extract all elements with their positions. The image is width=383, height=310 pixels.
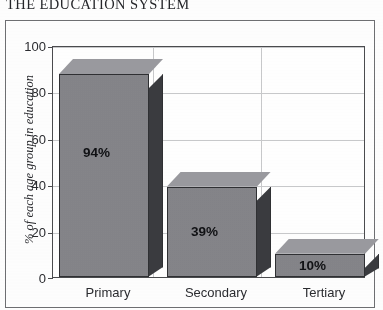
y-tick-label-60: 60 (16, 131, 46, 146)
bar-tertiary-top (275, 239, 379, 254)
x-label-tertiary: Tertiary (274, 285, 374, 300)
y-tick-mark-100 (48, 47, 53, 48)
y-tick-mark-20 (48, 233, 53, 234)
gridline-100 (53, 47, 364, 48)
y-tick-label-80: 80 (16, 85, 46, 100)
y-tick-mark-60 (48, 140, 53, 141)
plot-area: 94% 39% 10% (52, 46, 365, 278)
chart-title: THE EDUCATION SYSTEM (6, 0, 346, 14)
bar-secondary-side (256, 187, 271, 278)
bar-primary-value-label: 94% (83, 145, 110, 160)
y-tick-label-100: 100 (16, 39, 46, 54)
x-label-primary: Primary (58, 285, 158, 300)
bar-secondary-value-label: 39% (191, 224, 218, 239)
bar-primary-side (148, 74, 163, 277)
bar-primary[interactable]: 94% (59, 59, 149, 277)
chart-screenshot: THE EDUCATION SYSTEM % of each age group… (0, 0, 383, 310)
y-tick-label-20: 20 (16, 224, 46, 239)
y-tick-label-40: 40 (16, 178, 46, 193)
bar-secondary-top (167, 172, 271, 187)
bar-primary-top (59, 59, 163, 74)
bar-tertiary-value-label: 10% (299, 258, 326, 273)
y-tick-mark-40 (48, 186, 53, 187)
y-tick-mark-0 (48, 278, 53, 279)
bar-tertiary[interactable]: 10% (275, 239, 365, 277)
x-label-secondary: Secondary (166, 285, 266, 300)
y-tick-label-0: 0 (16, 271, 46, 286)
y-axis-tick-labels: 0 20 40 60 80 100 (16, 0, 46, 310)
bar-secondary[interactable]: 39% (167, 172, 257, 278)
bar-primary-face (59, 74, 149, 277)
y-tick-mark-80 (48, 93, 53, 94)
